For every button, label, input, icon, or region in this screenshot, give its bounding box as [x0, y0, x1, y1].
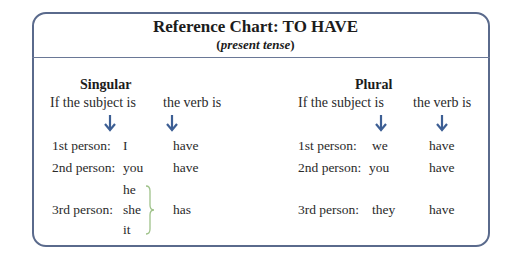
plural-row-3-person: 3rd person:	[298, 202, 359, 218]
plural-row-3-subject: they	[372, 202, 395, 218]
plural-row-1-person: 1st person:	[298, 138, 357, 154]
singular-verb-header: the verb is	[163, 95, 221, 111]
right-brace-icon	[145, 185, 155, 235]
plural-heading: Plural	[355, 77, 392, 93]
singular-row-3-subject-it: it	[123, 222, 131, 238]
plural-row-2-verb: have	[429, 160, 454, 176]
singular-row-3-subject-she: she	[123, 202, 141, 218]
singular-row-1-person: 1st person:	[52, 138, 111, 154]
singular-row-2-verb: have	[173, 160, 198, 176]
plural-row-2-person: 2nd person:	[298, 160, 361, 176]
chart-subtitle: (present tense)	[0, 37, 511, 53]
header-divider	[32, 57, 490, 58]
plural-row-3-verb: have	[429, 202, 454, 218]
singular-row-1-verb: have	[173, 138, 198, 154]
arrow-down-icon	[103, 114, 117, 132]
singular-row-1-subject: I	[123, 138, 128, 154]
arrow-down-icon	[435, 114, 449, 132]
singular-row-3-verb: has	[173, 202, 191, 218]
singular-row-2-person: 2nd person:	[52, 160, 115, 176]
arrow-down-icon	[165, 114, 179, 132]
chart-title: Reference Chart: TO HAVE	[0, 17, 511, 37]
plural-verb-header: the verb is	[413, 95, 471, 111]
plural-subject-header: If the subject is	[298, 95, 384, 111]
plural-row-1-subject: we	[372, 138, 388, 154]
plural-row-1-verb: have	[429, 138, 454, 154]
singular-row-3-subject-he: he	[123, 182, 136, 198]
singular-row-2-subject: you	[123, 160, 143, 176]
arrow-down-icon	[374, 114, 388, 132]
plural-row-2-subject: you	[369, 160, 389, 176]
singular-row-3-person: 3rd person:	[52, 202, 113, 218]
singular-subject-header: If the subject is	[50, 95, 136, 111]
singular-heading: Singular	[80, 77, 131, 93]
